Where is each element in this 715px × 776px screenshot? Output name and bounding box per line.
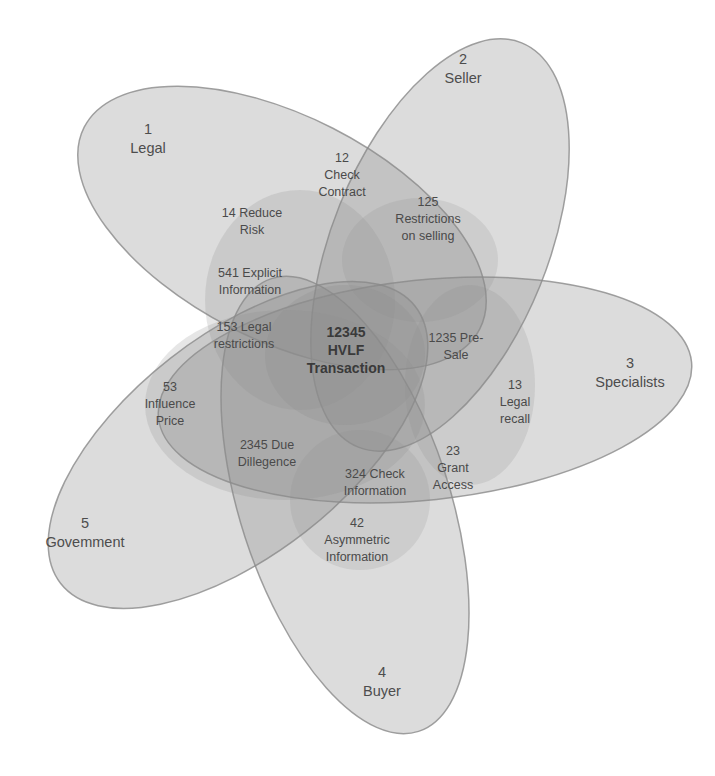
set-name: Govemment [46,533,125,552]
region-text: Information [344,483,407,500]
region-check-information: 324 Check Information [344,466,407,500]
region-count: 13 [500,377,531,394]
set-name: Legal [130,139,165,158]
region-text: Sale [429,347,484,364]
region-text: Legal [500,394,531,411]
region-explicit-information: 541 Explicit Information [218,265,282,299]
region-count: 12 [318,150,365,167]
region-text: Access [433,477,473,494]
region-text: recall [500,411,531,428]
region-text: Transaction [307,359,386,377]
set-number: 4 [363,663,401,682]
region-text: Dillegence [238,454,296,471]
region-pre-sale: 1235 Pre- Sale [429,330,484,364]
region-count: 23 [433,443,473,460]
region-count: 125 [395,194,460,211]
region-text: Risk [222,222,282,239]
region-restrictions-on-selling: 125 Restrictions on selling [395,194,460,245]
region-text: on selling [395,228,460,245]
region-influence-price: 53 Influence Price [145,379,196,430]
region-text: Information [324,549,389,566]
region-text: Influence [145,396,196,413]
region-text: Contract [318,184,365,201]
region-count: 324 Check [344,466,407,483]
region-text: Price [145,413,196,430]
region-grant-access: 23 Grant Access [433,443,473,494]
region-text: Grant [433,460,473,477]
region-text: Information [218,282,282,299]
region-hvlf-transaction: 12345 HVLF Transaction [307,323,386,377]
region-text: Asymmetric [324,532,389,549]
set-label-buyer: 4 Buyer [363,663,401,701]
region-reduce-risk: 14 Reduce Risk [222,205,282,239]
region-check-contract: 12 Check Contract [318,150,365,201]
region-text: Restrictions [395,211,460,228]
set-number: 3 [595,354,664,373]
region-text: HVLF [307,341,386,359]
set-label-government: 5 Govemment [46,514,125,552]
set-label-seller: 2 Seller [444,50,481,88]
set-label-specialists: 3 Specialists [595,354,664,392]
region-count: 12345 [307,323,386,341]
region-text: restrictions [214,336,274,353]
region-due-diligence: 2345 Due Dillegence [238,437,296,471]
set-number: 1 [130,120,165,139]
set-number: 5 [46,514,125,533]
region-asymmetric-information: 42 Asymmetric Information [324,515,389,566]
region-count: 541 Explicit [218,265,282,282]
region-legal-restrictions: 153 Legal restrictions [214,319,274,353]
region-count: 42 [324,515,389,532]
set-name: Specialists [595,373,664,392]
region-count: 153 Legal [214,319,274,336]
set-name: Seller [444,69,481,88]
set-name: Buyer [363,682,401,701]
region-count: 2345 Due [238,437,296,454]
region-count: 1235 Pre- [429,330,484,347]
region-count: 14 Reduce [222,205,282,222]
region-count: 53 [145,379,196,396]
region-legal-recall: 13 Legal recall [500,377,531,428]
set-number: 2 [444,50,481,69]
region-text: Check [318,167,365,184]
set-label-legal: 1 Legal [130,120,165,158]
